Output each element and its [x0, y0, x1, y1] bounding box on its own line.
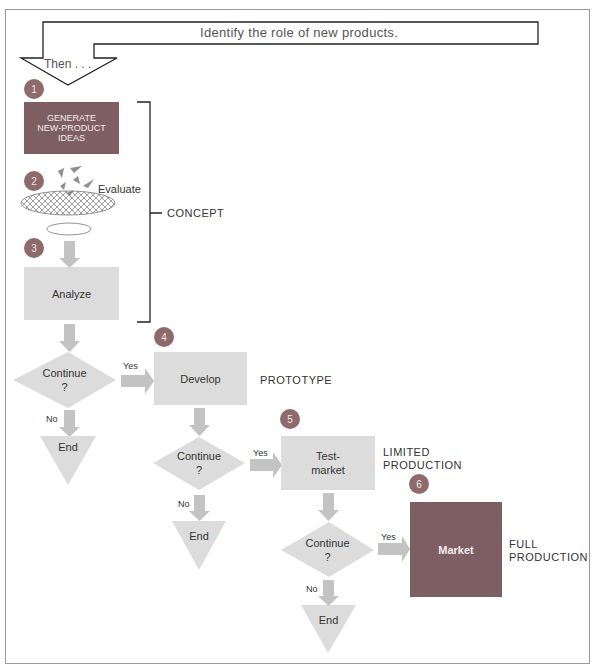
end-1-label: End [40, 439, 96, 455]
step-badge-3: 3 [24, 238, 44, 258]
stage-limited-production: LIMITED PRODUCTION [383, 446, 462, 472]
step-badge-1: 1 [24, 79, 44, 99]
decision-1-label: Continue ? [13, 366, 116, 394]
step-badge-2: 2 [24, 171, 44, 191]
end-2-label: End [172, 528, 226, 544]
decision-2-yes: Yes [253, 448, 268, 458]
decision-2-no: No [178, 499, 190, 509]
decision-3-no: No [306, 584, 318, 594]
test-market-label: Test- market [281, 436, 375, 490]
evaluate-label: Evaluate [98, 182, 141, 196]
banner-text: Identify the role of new products. [200, 25, 398, 40]
flowchart-shapes [0, 0, 595, 668]
step-badge-6: 6 [409, 474, 429, 494]
decision-3-yes: Yes [381, 532, 396, 542]
decision-3-label: Continue ? [281, 536, 374, 564]
arrow-down [59, 241, 80, 268]
step-badge-4: 4 [154, 327, 174, 347]
analyze-label: Analyze [24, 267, 119, 320]
decision-1-yes: Yes [123, 361, 138, 371]
develop-label: Develop [154, 352, 247, 405]
concept-bracket [137, 102, 162, 322]
generate-ideas-label: GENERATE NEW-PRODUCT IDEAS [24, 102, 119, 154]
stage-prototype: PROTOTYPE [260, 374, 332, 387]
decision-1-no: No [46, 414, 58, 424]
end-3-label: End [301, 612, 356, 628]
stage-full-production: FULL PRODUCTION [509, 538, 588, 564]
evaluate-output [47, 223, 91, 235]
decision-2-label: Continue ? [153, 449, 245, 477]
stage-concept: CONCEPT [167, 207, 224, 220]
step-badge-5: 5 [280, 409, 300, 429]
market-label: Market [410, 502, 502, 597]
then-text: Then . . . [44, 57, 91, 71]
